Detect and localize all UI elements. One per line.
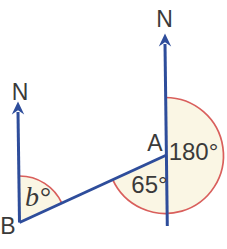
point-label-b: B xyxy=(0,213,15,239)
diagram-canvas: N N A B 180° 65° b° xyxy=(0,0,227,249)
angle-value-65: 65° xyxy=(131,171,167,198)
north-label-at-a: N xyxy=(156,6,173,32)
angle-variable-b: b° xyxy=(25,181,50,212)
point-label-a: A xyxy=(147,130,163,156)
north-label-at-b: N xyxy=(12,79,29,105)
angle-value-180: 180° xyxy=(169,138,219,165)
north-line-at-b xyxy=(18,112,20,223)
bearings-diagram: N N A B 180° 65° b° xyxy=(0,0,227,249)
